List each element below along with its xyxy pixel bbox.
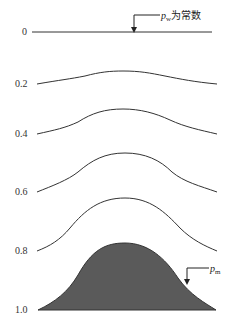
- annotation-arrow-top: [134, 15, 160, 30]
- arrow-head-bottom-icon: [184, 279, 190, 285]
- level-label-0: 0: [22, 26, 27, 37]
- level-label-1-0: 1.0: [15, 304, 28, 315]
- curve-level-0-2: [37, 71, 217, 84]
- level-label-0-2: 0.2: [15, 78, 28, 89]
- annotation-top-label: pw为常数: [160, 9, 201, 23]
- curve-level-1-0-filled: [38, 243, 216, 310]
- level-label-0-4: 0.4: [15, 128, 28, 139]
- level-label-0-6: 0.6: [15, 186, 28, 197]
- curve-level-0-6: [37, 153, 217, 192]
- level-label-0-8: 0.8: [15, 245, 28, 256]
- annotation-arrow-bottom: [187, 268, 209, 282]
- annotation-bottom-label: pm: [209, 263, 221, 276]
- curve-level-0-4: [37, 109, 217, 134]
- pressure-profile-diagram: 0 0.2 0.4 0.6 0.8 1.0 pw为常数 pm: [0, 0, 235, 327]
